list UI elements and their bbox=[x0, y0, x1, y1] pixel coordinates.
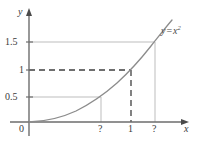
y-axis-label: y bbox=[18, 7, 22, 17]
graph-canvas bbox=[0, 0, 206, 147]
x-tick-label-1: 1 bbox=[128, 124, 133, 134]
x-tick-label-unknown-left: ? bbox=[98, 124, 102, 134]
origin-label: 0 bbox=[19, 124, 24, 134]
y-tick-label-1point5: 1.5 bbox=[5, 37, 18, 47]
curve-equation-exponent: 2 bbox=[178, 24, 181, 31]
y-tick-label-0point5: 0.5 bbox=[5, 92, 18, 102]
y-axis-arrowhead bbox=[26, 8, 32, 16]
curve-equation-operator: = bbox=[165, 25, 173, 36]
x-axis-label: x bbox=[184, 124, 188, 134]
x-tick-label-unknown-right: ? bbox=[152, 124, 156, 134]
curve-equation-label: y=x2 bbox=[161, 26, 181, 36]
graph-figure: y x 0 1.5 1 0.5 ? 1 ? y=x2 bbox=[0, 0, 206, 147]
y-tick-label-1: 1 bbox=[19, 65, 24, 75]
